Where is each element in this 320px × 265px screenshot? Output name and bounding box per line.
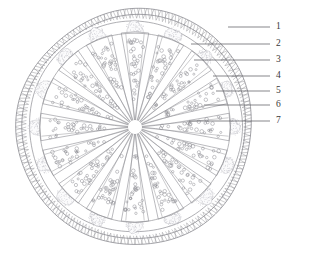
cap-stipple-dot [43, 92, 44, 93]
cap-stipple-dot [62, 200, 63, 201]
cap-stipple-dot [135, 26, 136, 27]
cap-stipple-dot [131, 228, 132, 229]
cap-stipple-dot [228, 89, 229, 90]
cap-stipple-dot [69, 198, 70, 199]
cap-stipple-dot [166, 31, 167, 32]
cap-stipple-dot [91, 220, 92, 221]
cap-stipple-dot [45, 165, 46, 166]
cap-stipple-dot [232, 162, 233, 163]
cap-stipple-dot [130, 20, 131, 21]
cap-stipple-dot [65, 194, 66, 195]
cap-stipple-dot [169, 34, 170, 35]
cap-stipple-dot [137, 223, 138, 224]
cap-stipple-dot [93, 38, 94, 39]
cap-stipple-dot [92, 214, 93, 215]
cap-stipple-dot [134, 229, 135, 230]
cap-stipple-dot [178, 30, 179, 31]
cap-stipple-dot [233, 170, 234, 171]
cap-stipple-dot [143, 227, 144, 228]
cap-stipple-dot [39, 121, 40, 122]
cap-stipple-dot [177, 213, 178, 214]
cap-stipple-dot [227, 88, 228, 89]
cap-stipple-dot [208, 193, 209, 194]
cap-stipple-dot [225, 81, 226, 82]
cap-stipple-dot [94, 224, 95, 225]
cap-stipple-dot [168, 28, 169, 29]
band-hatch-stroke [242, 108, 255, 109]
cap-stipple-dot [138, 232, 139, 233]
cap-stipple-dot [240, 122, 241, 123]
cap-stipple-dot [98, 27, 99, 28]
cap-stipple-dot [62, 199, 63, 200]
cap-stipple-dot [135, 232, 136, 233]
cap-stipple-dot [202, 54, 203, 55]
cap-stipple-dot [58, 190, 59, 191]
cap-stipple-dot [127, 223, 128, 224]
cap-stipple-dot [48, 81, 49, 82]
cap-stipple-dot [179, 31, 180, 32]
cap-stipple-dot [232, 164, 233, 165]
cap-stipple-dot [68, 48, 69, 49]
cap-stipple-dot [227, 84, 228, 85]
cap-stipple-dot [235, 131, 236, 132]
cap-stipple-dot [89, 216, 90, 217]
cap-stipple-dot [127, 24, 128, 25]
cap-stipple-dot [57, 193, 58, 194]
cap-stipple-dot [175, 214, 176, 215]
cap-stipple-dot [63, 51, 64, 52]
cap-stipple-dot [100, 36, 101, 37]
cap-stipple-dot [39, 124, 40, 125]
cap-stipple-dot [230, 84, 231, 85]
cap-stipple-dot [200, 200, 201, 201]
band-hatch-stroke [98, 229, 99, 242]
cap-stipple-dot [46, 169, 47, 170]
cap-stipple-dot [105, 220, 106, 221]
cap-stipple-dot [179, 217, 180, 218]
cap-stipple-dot [231, 123, 232, 124]
cap-stipple-dot [94, 33, 95, 34]
cap-stipple-dot [93, 39, 94, 40]
cap-stipple-dot [205, 197, 206, 198]
cap-stipple-dot [173, 221, 174, 222]
band-hatch-stroke [111, 233, 112, 246]
cap-stipple-dot [133, 30, 134, 31]
cap-stipple-dot [67, 202, 68, 203]
cap-stipple-dot [226, 171, 227, 172]
cap-stipple-dot [176, 40, 177, 41]
cap-stipple-dot [173, 37, 174, 38]
cap-stipple-dot [175, 216, 176, 217]
cap-stipple-dot [226, 159, 227, 160]
cap-stipple-dot [177, 218, 178, 219]
cap-stipple-dot [209, 203, 210, 204]
cap-stipple-dot [234, 131, 235, 132]
cap-stipple-dot [38, 158, 39, 159]
cap-stipple-dot [165, 30, 166, 31]
cap-stipple-dot [41, 90, 42, 91]
band-hatch-stroke [124, 6, 126, 19]
cap-stipple-dot [89, 220, 90, 221]
cap-stipple-dot [45, 170, 46, 171]
cap-stipple-dot [89, 39, 90, 40]
cap-stipple-dot [135, 234, 136, 235]
cap-stipple-dot [34, 128, 35, 129]
cap-stipple-dot [138, 233, 139, 234]
cap-stipple-dot [91, 32, 92, 33]
cap-stipple-dot [143, 228, 144, 229]
cap-stipple-dot [200, 53, 201, 54]
cap-stipple-dot [59, 199, 60, 200]
cap-stipple-dot [37, 166, 38, 167]
cap-stipple-dot [46, 88, 47, 89]
cap-stipple-dot [38, 81, 39, 82]
cap-stipple-dot [175, 215, 176, 216]
cap-stipple-dot [201, 55, 202, 56]
cap-stipple-dot [223, 87, 224, 88]
cap-stipple-dot [229, 96, 230, 97]
cap-stipple-dot [44, 90, 45, 91]
label-number-3: 3 [276, 54, 281, 64]
cap-stipple-dot [105, 218, 106, 219]
cap-stipple-dot [36, 118, 37, 119]
cap-stipple-dot [91, 29, 92, 30]
cap-stipple-dot [99, 32, 100, 33]
cap-stipple-dot [99, 219, 100, 220]
cap-stipple-dot [102, 223, 103, 224]
